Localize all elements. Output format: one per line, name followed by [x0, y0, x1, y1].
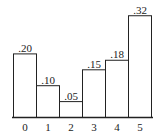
bar-3 — [83, 70, 106, 118]
bar-chart: .20.10.05.15.18.32 012345 — [0, 0, 159, 134]
value-label-5: .32 — [133, 4, 147, 16]
bars-group — [14, 16, 152, 118]
x-tick-label-3: 3 — [91, 121, 97, 133]
x-tick-label-5: 5 — [137, 121, 143, 133]
bar-4 — [106, 60, 129, 117]
value-label-0: .20 — [18, 42, 32, 54]
bar-2 — [60, 102, 83, 118]
x-tick-labels-group: 012345 — [22, 121, 143, 133]
bar-0 — [14, 54, 37, 118]
x-tick-label-2: 2 — [68, 121, 74, 133]
bar-5 — [129, 16, 152, 118]
value-label-4: .18 — [110, 48, 124, 60]
value-label-2: .05 — [64, 90, 78, 102]
x-tick-label-4: 4 — [114, 121, 120, 133]
bar-1 — [37, 86, 60, 118]
value-label-1: .10 — [41, 74, 55, 86]
value-label-3: .15 — [87, 58, 101, 70]
x-tick-label-0: 0 — [22, 121, 28, 133]
x-tick-label-1: 1 — [45, 121, 51, 133]
